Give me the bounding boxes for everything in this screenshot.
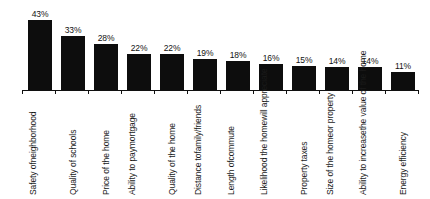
- category-label-line: Ability to pay: [127, 148, 138, 195]
- bar-group: 22%: [160, 54, 184, 90]
- category-label-line: commute: [226, 126, 237, 160]
- bar-group: 22%: [127, 54, 151, 90]
- axis-tick: [352, 90, 353, 94]
- category-label-line: family/friends: [193, 105, 204, 154]
- bar-group: 14%: [325, 67, 349, 90]
- category-label-line: or property: [325, 93, 336, 133]
- category-label-line: Size of the home: [325, 133, 336, 195]
- category-label-line: Quality of schools: [68, 130, 79, 195]
- axis-tick: [187, 90, 188, 94]
- bar: [325, 67, 349, 90]
- category-label: Property taxes: [292, 95, 316, 195]
- category-label-line: Length of: [226, 160, 237, 195]
- category-label-line: Property taxes: [299, 142, 310, 195]
- axis-tick: [88, 90, 89, 94]
- bar-value-label: 15%: [296, 55, 313, 65]
- axis-tick: [121, 90, 122, 94]
- axis-tick: [418, 90, 419, 94]
- bar-value-label: 28%: [98, 33, 115, 43]
- bar-value-label: 22%: [164, 43, 181, 53]
- bar-group: 28%: [94, 44, 118, 90]
- category-label: Likelihood the homewill appreciate: [259, 95, 283, 195]
- category-label: Ability to increasethe value of the home: [358, 95, 382, 195]
- bar: [127, 54, 151, 90]
- category-label-line: Energy efficiency: [398, 132, 409, 195]
- x-axis-labels: Safety ofneighborhoodQuality of schoolsP…: [0, 95, 430, 199]
- axis-tick: [55, 90, 56, 94]
- category-label-line: Price of the home: [101, 130, 112, 195]
- category-label: Safety ofneighborhood: [28, 95, 52, 195]
- bar: [61, 36, 85, 90]
- category-label-line: Quality of the home: [167, 123, 178, 195]
- bar: [28, 20, 52, 90]
- axis-tick: [220, 90, 221, 94]
- bar-value-label: 33%: [65, 25, 82, 35]
- bar-value-label: 11%: [395, 61, 411, 71]
- axis-tick: [154, 90, 155, 94]
- category-label-line: Likelihood the home: [259, 121, 270, 195]
- category-label-line: the value of the home: [358, 51, 369, 131]
- bar-group: 18%: [226, 61, 250, 90]
- bar-group: 11%: [391, 72, 415, 90]
- bar: [292, 66, 316, 90]
- bar-group: 15%: [292, 66, 316, 90]
- category-label-line: neighborhood: [28, 112, 39, 163]
- axis-tick: [22, 90, 23, 94]
- category-label-line: Ability to increase: [358, 130, 369, 195]
- axis-tick: [319, 90, 320, 94]
- bar: [94, 44, 118, 90]
- bar: [391, 72, 415, 90]
- category-label: Quality of schools: [61, 95, 85, 195]
- bar-value-label: 22%: [131, 43, 148, 53]
- category-label-line: Safety of: [28, 162, 39, 195]
- bar-value-label: 14%: [329, 56, 346, 66]
- category-label-line: mortgage: [127, 113, 138, 148]
- axis-tick: [385, 90, 386, 94]
- bar-chart: 43%33%28%22%22%19%18%16%15%14%14%11% Saf…: [0, 0, 430, 199]
- category-label-line: Distance to: [193, 154, 204, 195]
- bar-group: 33%: [61, 36, 85, 90]
- category-label: Ability to paymortgage: [127, 95, 151, 195]
- bar-value-label: 19%: [197, 48, 214, 58]
- bar: [226, 61, 250, 90]
- category-label-line: will appreciate: [259, 68, 270, 120]
- category-label: Price of the home: [94, 95, 118, 195]
- bar-value-label: 16%: [263, 53, 280, 63]
- bar-value-label: 43%: [32, 9, 49, 19]
- bar-group: 43%: [28, 20, 52, 90]
- category-label: Quality of the home: [160, 95, 184, 195]
- bar: [193, 59, 217, 90]
- axis-tick: [253, 90, 254, 94]
- category-label: Size of the homeor property: [325, 95, 349, 195]
- category-label: Distance tofamily/friends: [193, 95, 217, 195]
- category-label: Energy efficiency: [391, 95, 415, 195]
- axis-tick: [286, 90, 287, 94]
- bar: [160, 54, 184, 90]
- bar-value-label: 18%: [230, 50, 247, 60]
- category-label: Length ofcommute: [226, 95, 250, 195]
- bar-group: 19%: [193, 59, 217, 90]
